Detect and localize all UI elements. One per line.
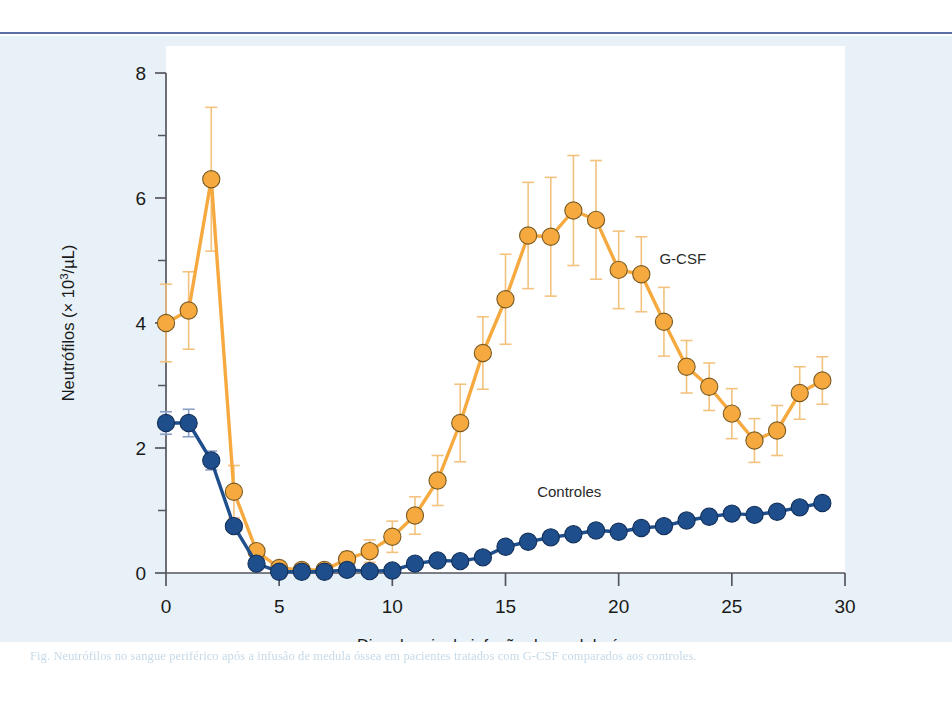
data-point xyxy=(791,384,808,401)
y-axis-title: Neutrófilos (× 103/µL) xyxy=(58,245,77,402)
data-point xyxy=(633,266,650,283)
y-axis-tick-label: 8 xyxy=(135,63,146,84)
series-controles xyxy=(157,409,831,580)
data-point xyxy=(610,523,627,540)
data-point xyxy=(157,414,174,431)
data-point xyxy=(203,171,220,188)
data-point xyxy=(587,522,604,539)
data-point xyxy=(814,372,831,389)
data-point xyxy=(452,553,469,570)
data-point xyxy=(271,563,288,580)
data-point xyxy=(361,563,378,580)
data-point xyxy=(406,507,423,524)
data-point xyxy=(769,422,786,439)
x-axis-tick-label: 15 xyxy=(495,596,516,617)
data-series-layer xyxy=(157,107,831,580)
neutrophil-line-chart: 02468051015202530Dias depois da infusão … xyxy=(0,0,952,702)
data-point xyxy=(497,538,514,555)
data-point xyxy=(157,314,174,331)
x-axis-tick-label: 30 xyxy=(834,596,855,617)
data-point xyxy=(723,505,740,522)
data-point xyxy=(316,563,333,580)
data-point xyxy=(520,533,537,550)
data-point xyxy=(587,211,604,228)
data-point xyxy=(701,508,718,525)
figure-container: 02468051015202530Dias depois da infusão … xyxy=(0,0,952,702)
data-point xyxy=(384,562,401,579)
data-point xyxy=(338,561,355,578)
data-point xyxy=(723,405,740,422)
data-point xyxy=(633,519,650,536)
data-point xyxy=(225,483,242,500)
data-point xyxy=(769,503,786,520)
error-bars xyxy=(160,107,828,573)
data-point xyxy=(791,499,808,516)
data-point xyxy=(384,528,401,545)
x-axis-tick-label: 25 xyxy=(721,596,742,617)
data-point xyxy=(655,518,672,535)
data-point xyxy=(474,344,491,361)
data-point xyxy=(429,472,446,489)
y-axis-tick-label: 0 xyxy=(135,563,146,584)
x-axis-tick-label: 5 xyxy=(274,596,285,617)
data-point xyxy=(610,261,627,278)
data-point xyxy=(565,526,582,543)
data-point xyxy=(701,378,718,395)
series-label-g-csf: G-CSF xyxy=(659,250,706,267)
data-point xyxy=(429,552,446,569)
data-point xyxy=(180,414,197,431)
data-point xyxy=(406,555,423,572)
data-point xyxy=(474,549,491,566)
data-point xyxy=(746,506,763,523)
figure-caption: Fig. Neutrófilos no sangue periférico ap… xyxy=(30,648,930,665)
data-point xyxy=(361,543,378,560)
data-point xyxy=(678,512,695,529)
data-point xyxy=(814,494,831,511)
y-axis-tick-label: 6 xyxy=(135,188,146,209)
data-point xyxy=(293,563,310,580)
data-point xyxy=(520,227,537,244)
svg-text:Neutrófilos (× 103/µL): Neutrófilos (× 103/µL) xyxy=(58,245,77,402)
data-point xyxy=(678,358,695,375)
x-axis-tick-label: 20 xyxy=(608,596,629,617)
data-point xyxy=(746,432,763,449)
y-axis-tick-label: 2 xyxy=(135,438,146,459)
y-axis-tick-label: 4 xyxy=(135,313,146,334)
x-axis-tick-label: 10 xyxy=(382,596,403,617)
x-axis-tick-label: 0 xyxy=(161,596,172,617)
axes-layer xyxy=(155,73,845,586)
data-point xyxy=(180,302,197,319)
data-point xyxy=(655,313,672,330)
data-point xyxy=(542,228,559,245)
data-point xyxy=(452,414,469,431)
data-point xyxy=(248,555,265,572)
data-point xyxy=(497,291,514,308)
data-point xyxy=(225,518,242,535)
data-point xyxy=(542,529,559,546)
data-point xyxy=(565,202,582,219)
data-point xyxy=(203,452,220,469)
series-label-controles: Controles xyxy=(537,483,601,500)
